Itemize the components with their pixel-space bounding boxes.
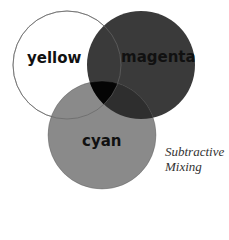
label-yellow: yellow: [27, 49, 82, 67]
caption-line-1: Subtractive: [165, 144, 224, 159]
label-magenta: magenta: [121, 48, 196, 66]
diagram-caption: Subtractive Mixing: [165, 144, 224, 174]
label-cyan: cyan: [82, 132, 121, 150]
caption-line-2: Mixing: [165, 159, 224, 174]
